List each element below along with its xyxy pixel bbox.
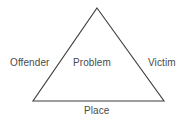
label-offender: Offender [10, 57, 50, 69]
label-problem: Problem [73, 57, 111, 69]
triangle-outline [33, 8, 164, 101]
diagram-canvas: Offender Problem Victim Place [0, 0, 191, 127]
label-victim: Victim [148, 57, 176, 69]
label-place: Place [84, 105, 110, 117]
